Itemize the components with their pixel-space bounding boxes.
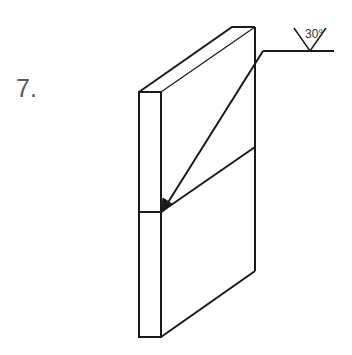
arrow-leader-line <box>167 51 263 204</box>
weld-symbol <box>161 28 334 213</box>
plate-bottom-edge <box>161 271 255 337</box>
plate-top-inner-edge <box>161 27 255 92</box>
plate-assembly <box>139 27 255 337</box>
plate-front-edge <box>139 92 161 337</box>
weld-diagram: 30° <box>0 0 352 355</box>
groove-angle-label: 30° <box>305 27 323 41</box>
weld-seam-face <box>161 147 255 212</box>
plate-top-face <box>139 27 255 92</box>
